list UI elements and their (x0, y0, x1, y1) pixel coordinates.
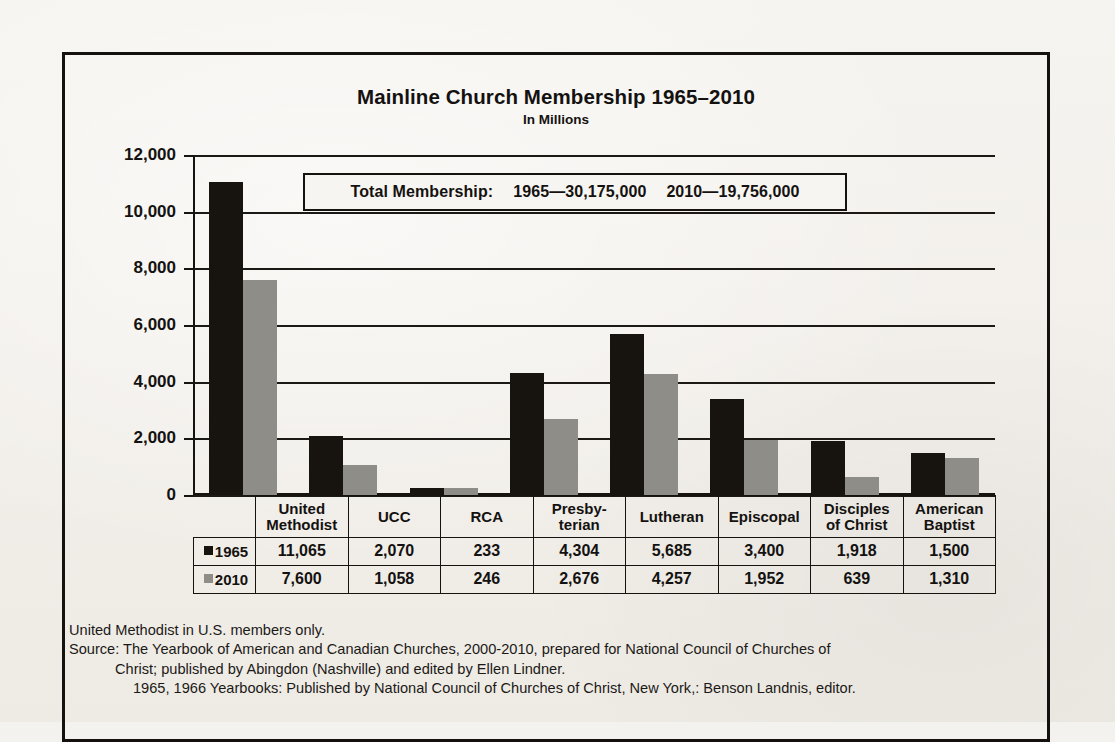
bar-2010-disciples-of-christ (845, 477, 879, 495)
table-cell: 4,257 (626, 566, 719, 594)
legend-item-2010: 2010 (194, 566, 256, 594)
table-row: 196511,0652,0702334,3045,6853,4001,9181,… (194, 538, 996, 566)
bar-2010-episcopal (744, 440, 778, 495)
bar-1965-american-baptist (911, 453, 945, 496)
table-col-header: UnitedMethodist (256, 496, 349, 538)
table-cell: 7,600 (256, 566, 349, 594)
table-col-header: RCA (441, 496, 534, 538)
bar-2010-american-baptist (945, 458, 979, 495)
y-tick-label-2000: 2,000 (133, 428, 176, 448)
table-cell: 1,500 (903, 538, 996, 566)
table-cell: 1,918 (811, 538, 904, 566)
table-cell: 639 (811, 566, 904, 594)
table-cell: 2,070 (348, 538, 441, 566)
y-tick-label-6000: 6,000 (133, 315, 176, 335)
footnote-line-2: Source: The Yearbook of American and Can… (69, 640, 1063, 659)
y-tick-label-0: 0 (167, 485, 176, 505)
bar-2010-lutheran (644, 374, 678, 495)
table-cell: 246 (441, 566, 534, 594)
table-cell: 5,685 (626, 538, 719, 566)
legend-item-1965: 1965 (194, 538, 256, 566)
bar-1965-united-methodist (209, 182, 243, 496)
callout-prefix: Total Membership: (350, 183, 493, 201)
y-tick-label-4000: 4,000 (133, 372, 176, 392)
bar-1965-episcopal (710, 399, 744, 495)
bar-1965-presbyterian (510, 373, 544, 495)
bar-2010-united-methodist (243, 280, 277, 495)
callout-2010: 2010—19,756,000 (666, 183, 799, 201)
y-tick-label-10000: 10,000 (124, 202, 176, 222)
bar-2010-rca (444, 488, 478, 495)
bar-2010-ucc (343, 465, 377, 495)
footnotes: United Methodist in U.S. members only. S… (63, 621, 1063, 699)
table-cell: 3,400 (718, 538, 811, 566)
chart-title: Mainline Church Membership 1965–2010 (65, 85, 1047, 109)
table-col-header: Lutheran (626, 496, 719, 538)
footnote-line-1: United Methodist in U.S. members only. (69, 621, 1063, 640)
table-cell: 4,304 (533, 538, 626, 566)
bar-2010-presbyterian (544, 419, 578, 495)
table-cell: 1,310 (903, 566, 996, 594)
legend-label-1965: 1965 (215, 543, 248, 560)
total-membership-callout: Total Membership: 1965—30,175,000 2010—1… (303, 173, 847, 211)
table-cell: 1,952 (718, 566, 811, 594)
legend-label-2010: 2010 (215, 571, 248, 588)
callout-1965: 1965—30,175,000 (513, 183, 646, 201)
bar-1965-ucc (309, 436, 343, 495)
table-col-header: Episcopal (718, 496, 811, 538)
table-cell: 233 (441, 538, 534, 566)
table-col-header: AmericanBaptist (903, 496, 996, 538)
bar-1965-lutheran (610, 334, 644, 495)
data-table: UnitedMethodistUCCRCAPresby-terianLuther… (193, 495, 996, 594)
legend-swatch-icon-2010 (204, 574, 213, 583)
table-corner-cell (194, 496, 256, 538)
table-col-header: Presby-terian (533, 496, 626, 538)
footnote-line-3: Christ; published by Abingdon (Nashville… (115, 660, 1063, 679)
table-cell: 2,676 (533, 566, 626, 594)
y-tick-label-8000: 8,000 (133, 258, 176, 278)
table-cell: 1,058 (348, 566, 441, 594)
footnote-line-4: 1965, 1966 Yearbooks: Published by Natio… (133, 679, 1063, 698)
bar-1965-rca (410, 488, 444, 495)
chart-subtitle: In Millions (65, 112, 1047, 127)
table-col-header: UCC (348, 496, 441, 538)
legend-swatch-icon-1965 (204, 546, 213, 555)
bar-group (895, 155, 995, 495)
chart-frame: Mainline Church Membership 1965–2010 In … (62, 52, 1050, 742)
table-cell: 11,065 (256, 538, 349, 566)
y-tick-label-12000: 12,000 (124, 145, 176, 165)
table-header-row: UnitedMethodistUCCRCAPresby-terianLuther… (194, 496, 996, 538)
table-col-header: Disciplesof Christ (811, 496, 904, 538)
bar-1965-disciples-of-christ (811, 441, 845, 495)
table-row: 20107,6001,0582462,6764,2571,9526391,310 (194, 566, 996, 594)
bar-group (193, 155, 293, 495)
